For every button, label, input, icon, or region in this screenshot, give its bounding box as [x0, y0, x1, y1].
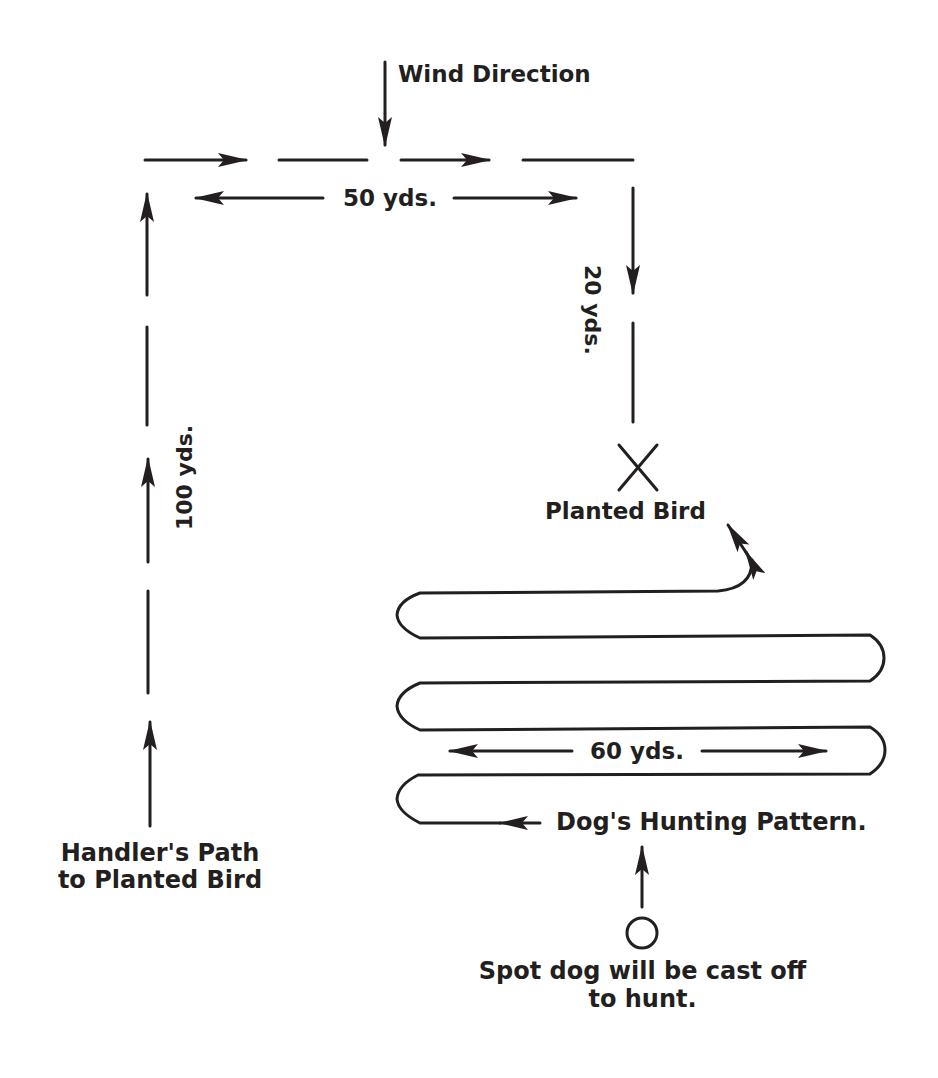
- dog-pattern-label: Dog's Hunting Pattern.: [556, 810, 867, 834]
- right-leg-20-label: 20 yds.: [581, 265, 603, 355]
- width-50-label: 50 yds.: [343, 187, 437, 210]
- wind-direction-label: Wind Direction: [398, 63, 591, 86]
- cast-off-label-line2: to hunt.: [450, 985, 835, 1013]
- dog-hunting-pattern: [397, 525, 885, 823]
- cast-off-label: Spot dog will be cast off to hunt.: [450, 957, 835, 1013]
- handler-path-left: [147, 194, 150, 826]
- field-diagram: [0, 0, 938, 1078]
- planted-bird-label: Planted Bird: [545, 500, 706, 523]
- handler-path-label-line2: to Planted Bird: [40, 867, 280, 894]
- handler-path-label-line1: Handler's Path: [40, 840, 280, 867]
- pattern-width-60-label: 60 yds.: [590, 740, 684, 763]
- left-leg-100-label: 100 yds.: [174, 425, 196, 530]
- cast-off-label-line1: Spot dog will be cast off: [450, 957, 835, 985]
- cast-off-spot-circle-icon: [627, 918, 657, 948]
- planted-bird-x-icon: [619, 445, 657, 490]
- handler-path-label: Handler's Path to Planted Bird: [40, 840, 280, 894]
